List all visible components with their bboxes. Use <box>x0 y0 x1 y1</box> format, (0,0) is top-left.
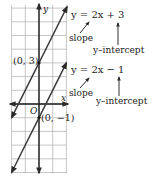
intercept-label-1: y–intercept <box>92 45 145 55</box>
slope-arrow-1 <box>80 22 89 33</box>
intercept-label-2: y–intercept <box>95 96 148 106</box>
point-label-0-3: (0, 3) <box>13 55 39 66</box>
slope-label-2: slope <box>69 88 93 98</box>
slope-arrow-2 <box>80 78 89 88</box>
x-axis-label: x <box>61 93 66 103</box>
annotation-eq2: y = 2x − 1 slope y–intercept <box>69 64 148 106</box>
slope-label-1: slope <box>69 33 93 43</box>
equation-1: y = 2x + 3 <box>70 9 125 20</box>
origin-label: O <box>30 106 38 116</box>
coordinate-graph: y x O (0, 3) (0, −1) y = 2x + 3 slope y–… <box>0 0 153 176</box>
equation-2: y = 2x − 1 <box>70 64 125 75</box>
annotation-eq1: y = 2x + 3 slope y–intercept <box>69 9 145 55</box>
point-label-0-neg1: (0, −1) <box>41 112 75 123</box>
y-axis-label: y <box>42 4 49 14</box>
axes <box>10 4 68 173</box>
